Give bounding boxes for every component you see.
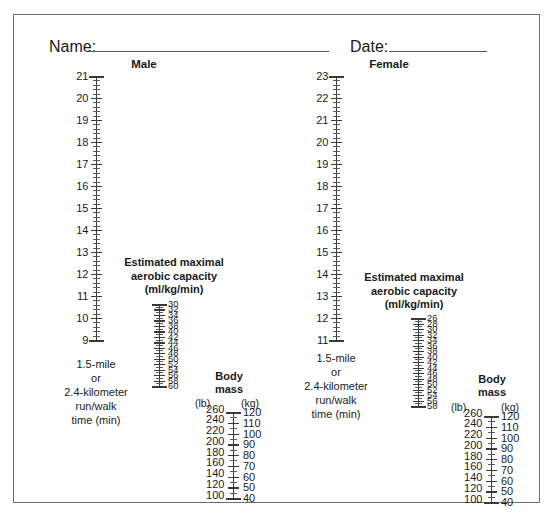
axis-tick (154, 375, 165, 376)
axis-tick (413, 357, 424, 358)
axis-minor-tick (156, 367, 163, 368)
axis-tick (154, 342, 165, 343)
axis-minor-tick (415, 381, 422, 382)
axis-minor-tick (333, 182, 340, 183)
axis-tick (228, 434, 239, 435)
axis-minor-tick (333, 336, 340, 337)
axis-minor-tick (93, 221, 100, 222)
axis-tick-label: 16 (76, 180, 88, 192)
axis-tick (329, 340, 344, 342)
axis-minor-tick (333, 278, 340, 279)
axis-tick (154, 331, 165, 332)
axis-tick-label: 17 (76, 158, 88, 170)
axis-tick (89, 340, 104, 342)
axis-minor-tick (93, 204, 100, 205)
axis-minor-tick (93, 124, 100, 125)
axis-minor-tick (156, 334, 163, 335)
axis-minor-tick (333, 212, 340, 213)
axis-minor-tick (93, 160, 100, 161)
axis-minor-tick (93, 327, 100, 328)
run-walk-time-axis-male[interactable]: 2120191817161514131211109 (96, 76, 97, 340)
run-walk-time-axis-female[interactable]: 23222120191817161514131211 (336, 76, 337, 340)
vo2max-axis-male[interactable]: 30323436384042444648505254565860 (159, 304, 160, 386)
axis-minor-tick (333, 89, 340, 90)
axis-minor-tick (333, 129, 340, 130)
axis-minor-tick (93, 107, 100, 108)
axis-minor-tick (93, 138, 100, 139)
axis-tick-label-lb: 100 (464, 493, 482, 505)
axis-minor-tick (93, 129, 100, 130)
axis-tick (413, 395, 424, 396)
axis-tick (228, 423, 239, 424)
axis-minor-tick (415, 365, 422, 366)
caption-line: 2.4-kilometer (276, 379, 396, 393)
axis-minor-tick (333, 305, 340, 306)
axis-minor-tick (333, 243, 340, 244)
axis-minor-tick (333, 292, 340, 293)
axis-minor-tick (156, 372, 163, 373)
date-input-rule[interactable] (389, 51, 487, 52)
axis-tick (154, 370, 165, 371)
axis-tick (413, 362, 424, 363)
caption-line: run/walk (276, 393, 396, 407)
axis-tick (413, 346, 424, 347)
axis-minor-tick (93, 182, 100, 183)
axis-tick-label-lb: 100 (206, 489, 224, 501)
vo2max-axis-female[interactable]: 2628303234363840424446485052545658 (418, 318, 419, 406)
axis-minor-tick (156, 312, 163, 313)
caption-line: aerobic capacity (106, 270, 242, 284)
axis-minor-tick (333, 124, 340, 125)
axis-minor-tick (156, 361, 163, 362)
axis-minor-tick (93, 168, 100, 169)
axis-tick-label: 18 (316, 180, 328, 192)
axis-tick (331, 120, 342, 121)
axis-minor-tick (156, 383, 163, 384)
axis-tick-label: 17 (316, 202, 328, 214)
axis-minor-tick (93, 217, 100, 218)
axis-minor-tick (333, 195, 340, 196)
axis-tick (91, 142, 102, 143)
axis-minor-tick (93, 111, 100, 112)
axis-tick (152, 304, 167, 306)
axis-tick (226, 412, 241, 414)
axis-minor-tick (93, 283, 100, 284)
axis-tick (413, 401, 424, 402)
axis-tick (411, 318, 426, 320)
axis-tick (152, 386, 167, 388)
run-walk-time-caption-female: 1.5-mileor2.4-kilometerrun/walktime (min… (276, 351, 396, 421)
body-mass-axis-male[interactable]: 1201101009080706050402602402202001801601… (233, 412, 234, 498)
caption-line: or (36, 371, 156, 385)
caption-line: or (276, 365, 396, 379)
worksheet-frame: Name: Date: Male 21201918171615141312111… (13, 14, 540, 503)
axis-tick (154, 326, 165, 327)
axis-minor-tick (415, 387, 422, 388)
axis-minor-tick (156, 318, 163, 319)
axis-tick-label: 12 (316, 312, 328, 324)
axis-minor-tick (93, 248, 100, 249)
axis-minor-tick (333, 270, 340, 271)
axis-tick (228, 444, 239, 445)
axis-minor-tick (333, 287, 340, 288)
axis-tick (486, 448, 497, 449)
axis-tick-label: 58 (427, 402, 437, 411)
body-mass-axis-female[interactable]: 1201101009080706050402602402202001801601… (491, 416, 492, 502)
axis-minor-tick (333, 146, 340, 147)
axis-tick (91, 252, 102, 253)
axis-minor-tick (93, 287, 100, 288)
axis-minor-tick (93, 314, 100, 315)
axis-minor-tick (333, 138, 340, 139)
axis-minor-tick (156, 378, 163, 379)
axis-minor-tick (488, 432, 495, 433)
axis-tick (228, 466, 239, 467)
axis-minor-tick (93, 309, 100, 310)
axis-tick-label: 21 (316, 114, 328, 126)
axis-tick (486, 481, 497, 482)
axis-tick (91, 208, 102, 209)
axis-tick (331, 296, 342, 297)
axis-minor-tick (93, 300, 100, 301)
axis-minor-tick (230, 439, 237, 440)
axis-minor-tick (488, 443, 495, 444)
axis-minor-tick (415, 403, 422, 404)
caption-line: Estimated maximal (346, 271, 482, 285)
name-input-rule[interactable] (89, 51, 329, 52)
